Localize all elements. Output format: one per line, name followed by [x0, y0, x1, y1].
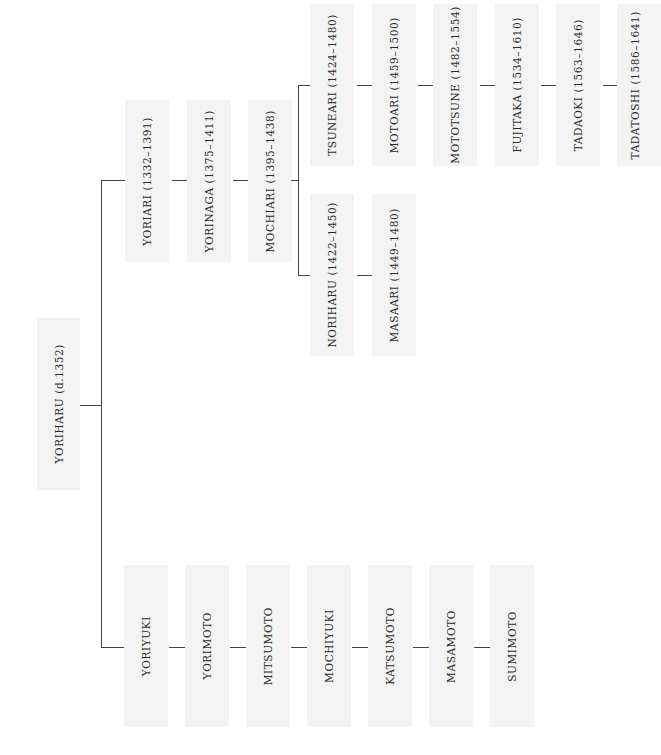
node-label: MASAMOTO: [445, 610, 457, 683]
node-label: MOTOTSUNE (1482–1554): [449, 6, 461, 164]
connector-yoriari-yorinaga: [172, 180, 187, 181]
node-label: MOCHIYUKI: [323, 609, 335, 683]
fork-mochiari-vertical: [298, 85, 299, 276]
node-mochiari: MOCHIARI (1395–1438): [248, 100, 292, 262]
connector-mitsumoto-mochiyuki: [291, 647, 307, 648]
connector-yorimoto-mitsumoto: [230, 647, 246, 648]
node-yoriharu: YORIHARU (d.1352): [37, 318, 80, 490]
node-label: NORIHARU (1422–1450): [326, 202, 338, 348]
node-label: SUMIMOTO: [506, 611, 518, 682]
connector-to-noriharu: [298, 275, 310, 276]
connector-mototsune-fujitaka: [480, 85, 495, 86]
node-label: TADATOSHI (1586–1641): [629, 11, 641, 159]
node-fujitaka: FUJITAKA (1534–1610): [495, 4, 539, 166]
trunk-vertical: [101, 180, 102, 647]
node-mototsune: MOTOTSUNE (1482–1554): [433, 4, 477, 166]
node-label: FUJITAKA (1534–1610): [511, 17, 523, 152]
connector-masamoto-sumimoto: [474, 647, 490, 648]
node-label: YORINAGA (1375–1411): [203, 110, 215, 253]
node-label: TSUNEARI (1424–1480): [326, 14, 338, 156]
connector-tsuneari-motoari: [357, 85, 372, 86]
node-yorimoto: YORIMOTO: [185, 565, 229, 727]
connector-yorinaga-mochiari: [233, 180, 248, 181]
connector-tadaoki-tadatoshi: [603, 85, 617, 86]
connector-yoriyuki-yorimoto: [169, 647, 185, 648]
node-label: TADAOKI (1563–1646): [572, 19, 584, 151]
connector-root: [80, 405, 101, 406]
node-masamoto: MASAMOTO: [429, 565, 473, 727]
node-label: YORIYUKI: [140, 616, 152, 676]
node-label: MASAARI (1449–1480): [388, 208, 400, 342]
node-katsumoto: KATSUMOTO: [368, 565, 412, 727]
connector-to-yoriari: [101, 180, 125, 181]
node-mitsumoto: MITSUMOTO: [246, 565, 290, 727]
node-yoriyuki: YORIYUKI: [124, 565, 168, 727]
node-label: KATSUMOTO: [384, 607, 396, 685]
connector-mochiyuki-katsumoto: [352, 647, 368, 648]
node-mochiyuki: MOCHIYUKI: [307, 565, 351, 727]
node-yoriari: YORIARI (1332–1391): [125, 100, 169, 262]
node-label: MOTOARI (1459–1500): [388, 17, 400, 153]
node-motoari: MOTOARI (1459–1500): [372, 4, 416, 166]
node-label: MITSUMOTO: [262, 607, 274, 685]
node-label: YORIHARU (d.1352): [53, 344, 65, 464]
node-label: MOCHIARI (1395–1438): [264, 110, 276, 253]
node-yorinaga: YORINAGA (1375–1411): [187, 100, 231, 262]
connector-motoari-mototsune: [418, 85, 433, 86]
node-masaari: MASAARI (1449–1480): [372, 194, 416, 356]
connector-to-tsuneari: [298, 85, 310, 86]
connector-fujitaka-tadaoki: [541, 85, 556, 86]
node-sumimoto: SUMIMOTO: [490, 565, 534, 727]
node-label: YORIARI (1332–1391): [141, 117, 153, 246]
connector-katsumoto-masamoto: [413, 647, 429, 648]
node-tadaoki: TADAOKI (1563–1646): [556, 4, 600, 166]
connector-noriharu-masaari: [357, 275, 372, 276]
node-tsuneari: TSUNEARI (1424–1480): [310, 4, 354, 166]
node-label: YORIMOTO: [201, 612, 213, 679]
node-tadatoshi: TADATOSHI (1586–1641): [617, 4, 661, 166]
connector-to-yoriyuki: [101, 647, 124, 648]
node-noriharu: NORIHARU (1422–1450): [310, 194, 354, 356]
